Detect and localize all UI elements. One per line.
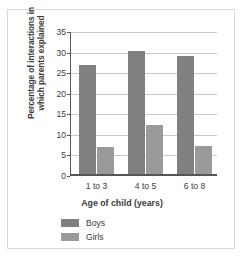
x-axis-title: Age of child (years) xyxy=(8,198,236,208)
x-axis-line xyxy=(70,174,217,176)
x-tick-label: 1 to 3 xyxy=(86,181,108,191)
plot-area: 05101520253035 1 to 34 to 56 to 8 xyxy=(70,32,217,176)
y-axis-title-line-1: Percentage of interactions in xyxy=(26,0,36,128)
chart-figure-frame: Percentage of interactions in which pare… xyxy=(7,9,235,249)
y-tick-label: 15 xyxy=(56,110,66,119)
y-tick-label: 10 xyxy=(56,131,66,140)
bar-boys-1 xyxy=(128,51,145,176)
x-tick-label: 6 to 8 xyxy=(184,181,206,191)
y-tick-label: 30 xyxy=(56,48,66,57)
y-tick-label: 5 xyxy=(61,151,66,160)
bar-boys-0 xyxy=(79,65,96,176)
legend-item-boys: Boys xyxy=(61,216,105,230)
x-tick-label: 4 to 5 xyxy=(135,181,157,191)
legend-label: Boys xyxy=(86,219,105,228)
y-tick-label: 35 xyxy=(56,28,66,37)
bar-boys-2 xyxy=(177,56,194,176)
y-axis-title-line-2: which parents explained xyxy=(36,0,46,128)
bar-girls-2 xyxy=(195,146,212,176)
chart-legend: BoysGirls xyxy=(61,216,105,244)
y-tick-mark xyxy=(67,176,70,177)
legend-swatch-icon xyxy=(61,219,79,227)
plot-inner: 05101520253035 1 to 34 to 56 to 8 xyxy=(70,32,217,176)
gridline xyxy=(70,32,217,33)
legend-swatch-icon xyxy=(61,233,79,241)
y-tick-label: 25 xyxy=(56,69,66,78)
y-axis-title: Percentage of interactions in which pare… xyxy=(26,0,56,128)
bar-girls-0 xyxy=(97,147,114,176)
legend-label: Girls xyxy=(86,233,104,242)
y-tick-label: 20 xyxy=(56,89,66,98)
bar-girls-1 xyxy=(146,125,163,176)
legend-item-girls: Girls xyxy=(61,230,105,244)
y-axis-line xyxy=(70,32,71,176)
y-tick-label: 0 xyxy=(61,172,66,181)
